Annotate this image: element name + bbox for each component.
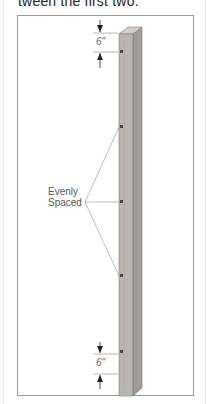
evenly-spaced-label: Evenly Spaced <box>48 186 82 208</box>
arrow-up-icon <box>97 53 103 60</box>
arrow-down-icon <box>97 346 103 353</box>
board-front-face <box>119 34 133 396</box>
screw-2 <box>120 125 123 128</box>
screw-4 <box>120 274 123 277</box>
arrow-up-icon <box>97 375 103 382</box>
bottom-dimension-label: 6" <box>96 357 105 368</box>
top-dimension-label: 6" <box>96 36 105 47</box>
board-side-face <box>133 27 142 396</box>
screw-3 <box>120 200 123 203</box>
screw-5 <box>120 350 123 353</box>
screw-1 <box>120 50 123 53</box>
callout-line-1: Evenly <box>48 186 82 197</box>
arrow-down-icon <box>97 25 103 32</box>
callout-line-2: Spaced <box>48 197 82 208</box>
board-illustration <box>0 0 209 404</box>
